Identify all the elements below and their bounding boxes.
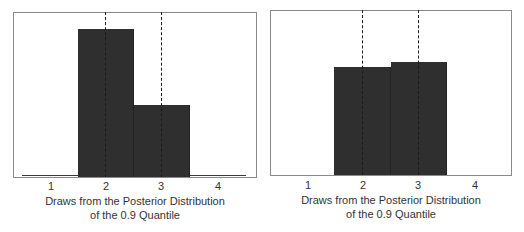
left-tick-label-3: 3 [158, 180, 164, 192]
left-x-axis-label-line2: of the 0.9 Quantile [13, 208, 257, 222]
right-tick-label-4: 4 [472, 179, 478, 191]
left-bar-2 [78, 29, 134, 177]
left-x-axis-label-line1: Draws from the Posterior Distribution [13, 194, 257, 208]
right-reference-line-3 [418, 10, 419, 175]
right-tick-label-1: 1 [305, 179, 311, 191]
left-bar-4 [190, 175, 246, 176]
left-histogram-panel: 1 2 3 4 Draws from the Posterior Distrib… [0, 0, 262, 232]
left-reference-line-3 [161, 12, 162, 177]
right-tick-label-2: 2 [360, 179, 366, 191]
right-x-axis-label-line2: of the 0.9 Quantile [270, 207, 512, 221]
left-tick-label-4: 4 [215, 180, 221, 192]
left-reference-line-2 [105, 12, 106, 177]
left-tick-label-2: 2 [103, 180, 109, 192]
left-bar-3 [134, 105, 190, 177]
right-tick-label-3: 3 [415, 179, 421, 191]
right-histogram-panel: 1 2 3 4 Draws from the Posterior Distrib… [262, 0, 524, 232]
left-tick-label-1: 1 [48, 180, 54, 192]
right-x-axis-label: Draws from the Posterior Distribution of… [270, 193, 512, 221]
left-bar-1 [22, 175, 78, 176]
right-x-axis-label-line1: Draws from the Posterior Distribution [270, 193, 512, 207]
left-x-axis-label: Draws from the Posterior Distribution of… [13, 194, 257, 222]
right-reference-line-2 [362, 10, 363, 175]
right-bar-3 [391, 62, 447, 175]
